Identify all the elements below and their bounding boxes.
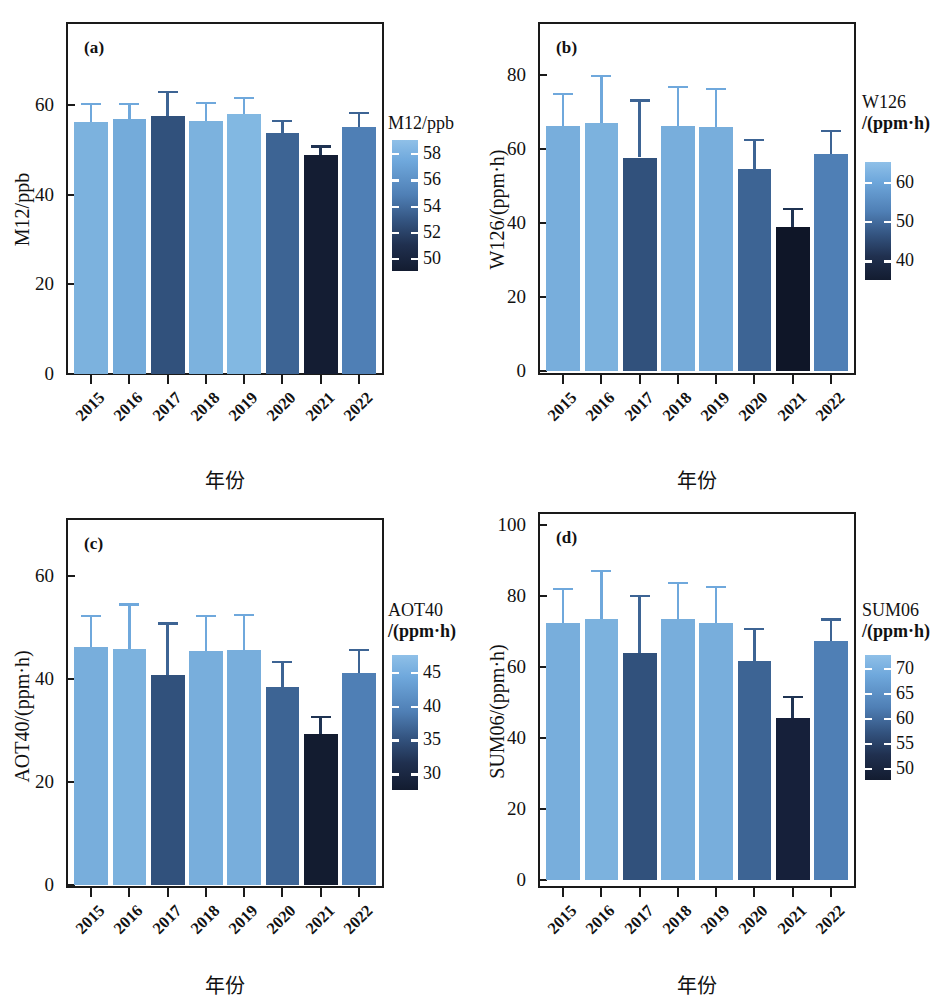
error-bar-line <box>791 696 793 718</box>
error-bar-cap <box>706 586 726 588</box>
colorbar-tick-mark-right <box>884 718 891 720</box>
y-axis-tick-mark <box>538 524 547 526</box>
y-axis-tick-label: 20 <box>0 798 538 820</box>
x-axis-tick-mark <box>715 888 717 897</box>
colorbar-tick-label: 70 <box>896 657 914 678</box>
colorbar-tick-mark <box>865 668 872 670</box>
colorbar-tick-mark <box>865 743 872 745</box>
error-bar-cap <box>668 582 688 584</box>
error-bar-line <box>638 595 640 653</box>
y-axis-tick-label: 60 <box>0 656 538 678</box>
x-axis-tick-mark <box>792 888 794 897</box>
x-axis-tick-mark <box>677 888 679 897</box>
colorbar-tick-mark-right <box>884 768 891 770</box>
error-bar-line <box>562 588 564 623</box>
error-bar-line <box>677 582 679 619</box>
colorbar-tick-label: 65 <box>896 682 914 703</box>
error-bar-cap <box>783 696 803 698</box>
y-axis-tick-label: 0 <box>0 869 538 891</box>
x-axis-tick-mark <box>600 888 602 897</box>
colorbar-tick-mark <box>865 768 872 770</box>
x-axis-tick-mark <box>562 888 564 897</box>
error-bar-cap <box>553 588 573 590</box>
error-bar-cap <box>744 628 764 630</box>
colorbar-tick-mark-right <box>884 743 891 745</box>
bar <box>585 619 619 880</box>
colorbar-title: SUM06/(ppm·h) <box>862 600 930 641</box>
bar <box>623 653 657 880</box>
panel-label: (d) <box>556 528 577 548</box>
colorbar-tick-mark <box>865 718 872 720</box>
error-bar-line <box>830 618 832 641</box>
bar <box>776 718 810 880</box>
colorbar-tick-mark-right <box>884 693 891 695</box>
bar <box>699 623 733 880</box>
colorbar-tick-label: 55 <box>896 732 914 753</box>
y-axis-tick-mark <box>538 595 547 597</box>
bar <box>661 619 695 880</box>
colorbar-tick-label: 50 <box>896 757 914 778</box>
error-bar-cap <box>821 618 841 620</box>
colorbar-title-line2: /(ppm·h) <box>862 621 930 642</box>
x-axis-tick-mark <box>753 888 755 897</box>
y-axis-label: SUM06/(ppm·h) <box>486 612 509 812</box>
error-bar-line <box>600 570 602 619</box>
error-bar-line <box>753 628 755 661</box>
y-axis-tick-label: 40 <box>0 727 538 749</box>
y-axis-tick-label: 80 <box>0 585 538 607</box>
error-bar-cap <box>630 595 650 597</box>
error-bar-cap <box>591 570 611 572</box>
colorbar-tick-mark-right <box>884 668 891 670</box>
bar <box>738 661 772 880</box>
bar <box>546 623 580 880</box>
bar <box>814 641 848 880</box>
x-axis-label: 年份 <box>627 970 767 999</box>
error-bar-line <box>715 586 717 623</box>
colorbar-title-line1: SUM06 <box>862 600 930 621</box>
colorbar-tick-mark <box>865 693 872 695</box>
colorbar-tick-label: 60 <box>896 707 914 728</box>
y-axis-tick-label: 100 <box>0 514 538 536</box>
x-axis-tick-mark <box>639 888 641 897</box>
x-axis-tick-mark <box>830 888 832 897</box>
